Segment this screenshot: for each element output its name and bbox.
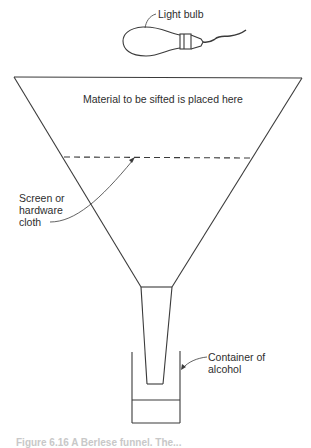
light-bulb-leader bbox=[145, 14, 156, 28]
light-bulb-label: Light bulb bbox=[158, 8, 204, 20]
screen-line bbox=[64, 157, 250, 158]
arrowhead-icon bbox=[181, 364, 186, 370]
alcohol-container bbox=[132, 351, 180, 423]
figure-caption: Figure 6.16 A Berlese funnel. The... bbox=[16, 437, 181, 448]
screen-label-line2: hardware bbox=[19, 204, 63, 216]
container-label-line2: alcohol bbox=[208, 363, 241, 375]
light-bulb-icon bbox=[123, 27, 246, 56]
container-leader bbox=[183, 357, 207, 368]
funnel bbox=[14, 77, 302, 384]
screen-label-line1: Screen or bbox=[19, 192, 65, 204]
screen-label-line3: cloth bbox=[19, 216, 41, 228]
container-label-line1: Container of bbox=[208, 351, 265, 363]
material-label: Material to be sifted is placed here bbox=[83, 93, 243, 105]
